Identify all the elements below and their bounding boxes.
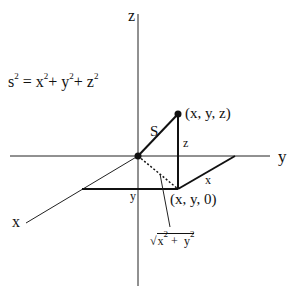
y-length-label: y: [130, 190, 136, 202]
sqrt-label: √x2 + y2: [150, 230, 194, 247]
dotted-diagonal: [138, 156, 178, 189]
point-xy0-label: (x, y, 0): [170, 192, 217, 207]
diagram-lines: [0, 0, 295, 286]
equation: s2 = x2+ y2+ z2: [8, 72, 98, 90]
x-length-label: x: [205, 174, 211, 186]
origin-point: [135, 153, 142, 160]
point-xyz-label: (x, y, z): [185, 106, 231, 121]
s-label: S: [150, 124, 158, 139]
z-length-label: z: [183, 137, 188, 149]
x-axis-label: x: [12, 214, 20, 230]
z-axis-label: z: [128, 8, 135, 24]
y-axis-label: y: [278, 148, 287, 165]
xyz-point: [175, 111, 182, 118]
